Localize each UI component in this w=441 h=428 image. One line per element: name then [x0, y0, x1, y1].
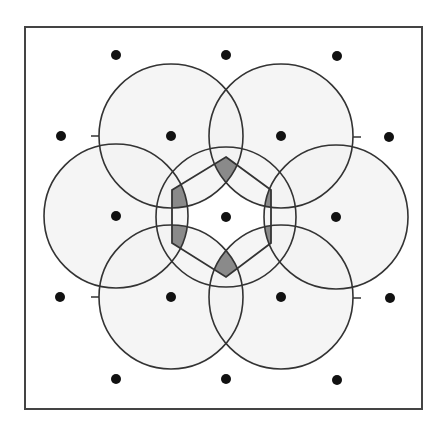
grid-dot: [55, 292, 65, 302]
hexagonal-coverage-diagram: [0, 0, 441, 428]
grid-dot: [221, 50, 231, 60]
grid-dot: [111, 50, 121, 60]
grid-dot: [331, 212, 341, 222]
grid-dot: [221, 374, 231, 384]
grid-dot: [276, 292, 286, 302]
grid-dot: [384, 132, 394, 142]
grid-dot: [385, 293, 395, 303]
grid-dot: [332, 375, 342, 385]
grid-dot: [56, 131, 66, 141]
grid-dot: [221, 212, 231, 222]
grid-dot: [166, 131, 176, 141]
grid-dot: [332, 51, 342, 61]
grid-dot: [111, 374, 121, 384]
grid-dot: [166, 292, 176, 302]
grid-dot: [276, 131, 286, 141]
grid-dot: [111, 211, 121, 221]
